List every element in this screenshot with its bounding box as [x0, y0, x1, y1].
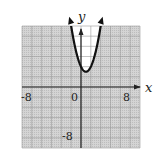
origin-label: 0: [71, 91, 78, 104]
curve-left-arrow-icon: [68, 17, 74, 25]
curve-right-arrow-icon: [98, 17, 104, 25]
y-tick-neg8: -8: [62, 130, 73, 143]
coordinate-graph: y x -8 0 8 -8: [0, 0, 157, 162]
x-tick-neg8: -8: [21, 91, 32, 104]
x-axis-label: x: [145, 80, 153, 95]
x-tick-8: 8: [123, 91, 130, 104]
y-axis-label: y: [77, 9, 86, 24]
